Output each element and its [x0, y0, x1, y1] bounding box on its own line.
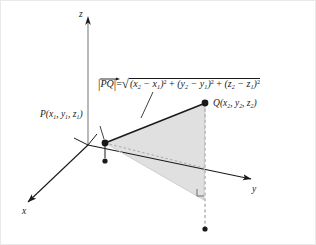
coordinate-diagram-svg [0, 0, 316, 245]
point-q-coords: (x2, y2, z2) [220, 98, 257, 108]
vector-pq-letters: PQ [100, 78, 113, 89]
x-axis-label: x [22, 207, 26, 217]
q-projection-dot [202, 226, 207, 231]
point-q [202, 100, 209, 107]
sqrt-glyph: √ [122, 76, 129, 91]
z-axis-label: z [79, 10, 83, 20]
equals-sign: = [116, 78, 122, 89]
y-axis-negative-stub [74, 138, 88, 145]
x-axis-line [28, 145, 88, 202]
p-projection-dot [102, 158, 107, 163]
formula-leader-line [141, 92, 153, 118]
term-y: (y2 − y1)2 [177, 78, 214, 89]
vector-pq-symbol: PQ [100, 78, 113, 89]
vinculum-bar [129, 78, 260, 79]
point-p-coords: (x1, y1, z1) [46, 109, 83, 119]
figure-canvas: z y x P(x1, y1, z1) Q(x2, y2, z2) |PQ|=√… [0, 0, 316, 245]
x-axis-negative-stub [88, 134, 97, 145]
radicand: (x2 − x1)2 + (y2 − y1)2 + (z2 − z1)2 [129, 79, 260, 90]
distance-formula: |PQ|=√(x2 − x1)2 + (y2 − y1)2 + (z2 − z1… [98, 76, 260, 90]
term-z: (z2 − z1)2 [224, 78, 260, 89]
point-p-letter: P [40, 109, 46, 119]
point-p [102, 140, 109, 147]
y-axis-label: y [252, 185, 256, 195]
point-q-letter: Q [213, 98, 220, 108]
point-q-label: Q(x2, y2, z2) [213, 99, 257, 110]
plus-sign-2: + [214, 78, 225, 89]
p-label-leader-line [100, 126, 104, 139]
point-p-label: P(x1, y1, z1) [40, 110, 83, 121]
plus-sign-1: + [167, 78, 178, 89]
term-x: (x2 − x1)2 [130, 78, 167, 89]
